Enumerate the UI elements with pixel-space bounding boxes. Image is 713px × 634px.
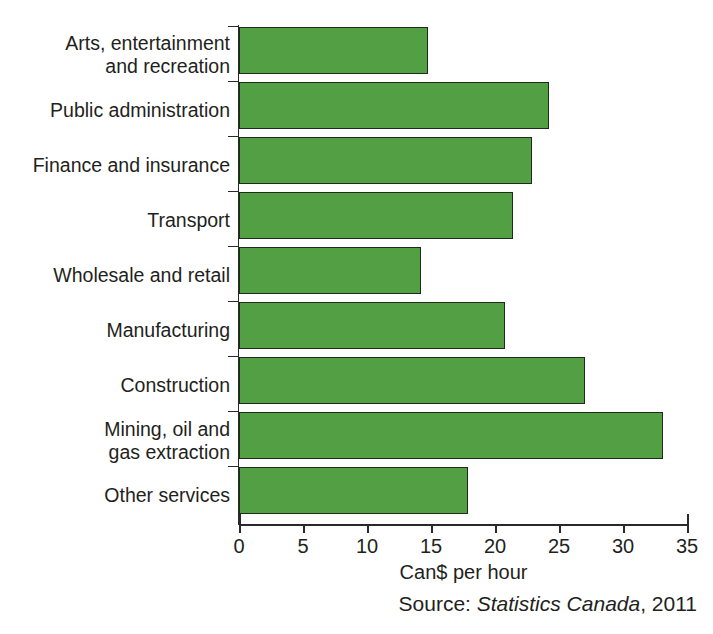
category-tick-4 bbox=[228, 246, 239, 247]
bar-public-admin[interactable] bbox=[239, 82, 549, 129]
category-tick-7 bbox=[228, 411, 239, 412]
bar-chart-plot-area: Arts, entertainment and recreation Publi… bbox=[0, 0, 713, 560]
source-prefix: Source: bbox=[399, 592, 477, 615]
x-tick-label-20: 20 bbox=[484, 535, 506, 558]
x-tick-35 bbox=[687, 524, 689, 533]
category-tick-2 bbox=[228, 136, 239, 137]
x-axis-line bbox=[239, 524, 688, 526]
x-tick-0 bbox=[239, 524, 241, 533]
bar-mining[interactable] bbox=[239, 412, 663, 459]
category-label-construction: Construction bbox=[121, 374, 239, 397]
category-tick-1 bbox=[228, 81, 239, 82]
bar-other-services[interactable] bbox=[239, 467, 468, 514]
category-label-wholesale: Wholesale and retail bbox=[53, 264, 239, 287]
bar-wholesale[interactable] bbox=[239, 247, 421, 294]
category-label-transport: Transport bbox=[147, 209, 239, 232]
x-tick-label-35: 35 bbox=[676, 535, 698, 558]
x-tick-label-0: 0 bbox=[233, 535, 244, 558]
category-tick-5 bbox=[228, 301, 239, 302]
category-label-public-admin: Public administration bbox=[50, 99, 239, 122]
category-tick-8 bbox=[228, 466, 239, 467]
x-tick-label-25: 25 bbox=[548, 535, 570, 558]
category-label-arts: Arts, entertainment and recreation bbox=[65, 32, 239, 78]
category-label-finance: Finance and insurance bbox=[33, 154, 239, 177]
x-axis-label: Can$ per hour bbox=[239, 561, 688, 584]
x-tick-30 bbox=[623, 524, 625, 533]
bar-transport[interactable] bbox=[239, 192, 513, 239]
source-note: Source: Statistics Canada, 2011 bbox=[399, 592, 697, 616]
x-tick-25 bbox=[559, 524, 561, 533]
x-tick-label-15: 15 bbox=[420, 535, 442, 558]
category-label-manufacturing: Manufacturing bbox=[106, 319, 239, 342]
bar-construction[interactable] bbox=[239, 357, 585, 404]
x-tick-label-10: 10 bbox=[356, 535, 378, 558]
source-suffix: , 2011 bbox=[640, 592, 697, 615]
source-emphasis: Statistics Canada bbox=[477, 592, 640, 615]
x-tick-20 bbox=[495, 524, 497, 533]
category-label-mining: Mining, oil and gas extraction bbox=[104, 418, 239, 464]
x-tick-5 bbox=[303, 524, 305, 533]
x-tick-15 bbox=[431, 524, 433, 533]
x-tick-10 bbox=[367, 524, 369, 533]
x-tick-label-30: 30 bbox=[612, 535, 634, 558]
x-tick-cap-0 bbox=[239, 514, 241, 524]
category-tick-0 bbox=[228, 26, 239, 27]
category-tick-6 bbox=[228, 356, 239, 357]
bar-manufacturing[interactable] bbox=[239, 302, 505, 349]
x-tick-cap-35 bbox=[687, 514, 689, 524]
category-tick-3 bbox=[228, 191, 239, 192]
category-label-other-services: Other services bbox=[104, 484, 239, 507]
bar-arts[interactable] bbox=[239, 27, 428, 74]
bar-finance[interactable] bbox=[239, 137, 532, 184]
x-tick-label-5: 5 bbox=[297, 535, 308, 558]
